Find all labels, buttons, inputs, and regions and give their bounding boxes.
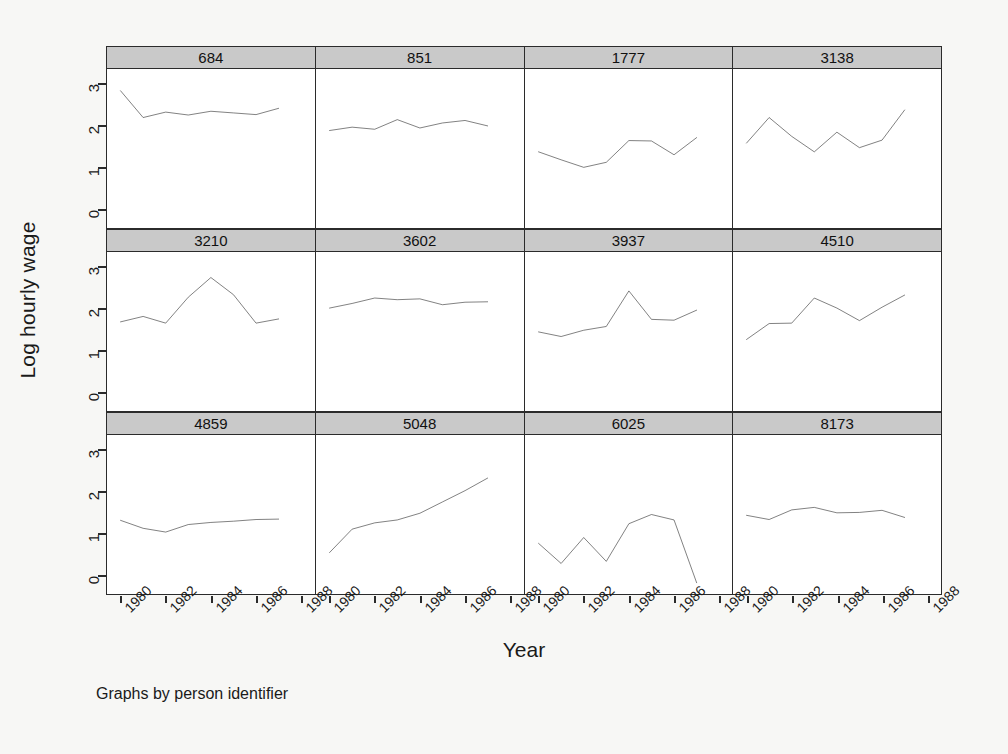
y-tick-label: 1	[85, 351, 103, 359]
facet-panel[interactable]	[107, 435, 316, 594]
facet-plot-row	[106, 69, 942, 229]
y-tick-mark	[98, 266, 106, 268]
series-line	[525, 69, 733, 228]
y-tick-label: 2	[85, 492, 103, 500]
facet-panel[interactable]	[733, 435, 941, 594]
series-line	[107, 252, 315, 411]
chart-caption-text: Graphs by person identifier	[96, 685, 288, 702]
y-tick-label: 3	[85, 84, 103, 92]
facet-strip-label: 4510	[733, 230, 941, 251]
series-line	[107, 69, 315, 228]
y-tick-mark	[98, 125, 106, 127]
facet-strip-label: 3138	[733, 47, 941, 68]
facet-strip-label: 1777	[525, 47, 734, 68]
facet-strip: 3210360239374510	[106, 229, 942, 252]
y-tick-mark	[98, 83, 106, 85]
x-tick-mark	[629, 596, 631, 603]
facet-strip-label: 8173	[733, 413, 941, 434]
series-line	[525, 252, 733, 411]
y-tick-label: 3	[85, 267, 103, 275]
facet-strip-label: 3937	[525, 230, 734, 251]
x-axis-title: Year	[106, 638, 942, 662]
facet-strip-label: 5048	[316, 413, 525, 434]
facet-strip: 68485117773138	[106, 46, 942, 69]
y-tick-mark	[98, 533, 106, 535]
y-tick-mark	[98, 449, 106, 451]
series-line	[316, 435, 524, 594]
facet-panel[interactable]	[316, 69, 525, 228]
y-tick-label: 2	[85, 309, 103, 317]
x-tick-mark	[256, 596, 258, 603]
y-tick-label: 0	[85, 210, 103, 218]
y-tick-label: 0	[85, 576, 103, 584]
facet-panel[interactable]	[316, 435, 525, 594]
y-tick-label: 3	[85, 450, 103, 458]
x-tick-mark	[120, 596, 122, 603]
facet-row: 3210360239374510	[106, 229, 942, 412]
series-line	[316, 69, 524, 228]
chart-caption: Graphs by person identifier	[96, 685, 288, 703]
facet-strip-label: 684	[107, 47, 316, 68]
facet-row: 4859504860258173	[106, 412, 942, 595]
x-tick-mark	[674, 596, 676, 603]
facet-panel[interactable]	[733, 69, 941, 228]
y-tick-label: 1	[85, 534, 103, 542]
facet-strip-label: 6025	[525, 413, 734, 434]
x-tick-mark	[211, 596, 213, 603]
facet-panel[interactable]	[107, 69, 316, 228]
facet-plot-row	[106, 435, 942, 595]
facet-grid: 6848511777313832103602393745104859504860…	[106, 46, 942, 596]
y-axis-title: Log hourly wage	[0, 0, 56, 600]
y-tick-mark	[98, 575, 106, 577]
facet-panel[interactable]	[525, 435, 734, 594]
facet-panel[interactable]	[733, 252, 941, 411]
facet-strip-label: 3602	[316, 230, 525, 251]
facet-plot-row	[106, 252, 942, 412]
y-tick-mark	[98, 167, 106, 169]
x-tick-mark	[420, 596, 422, 603]
x-tick-mark	[883, 596, 885, 603]
series-line	[733, 435, 941, 594]
facet-strip: 4859504860258173	[106, 412, 942, 435]
x-tick-mark	[747, 596, 749, 603]
y-tick-label: 1	[85, 168, 103, 176]
x-axis-title-text: Year	[503, 638, 545, 661]
x-tick-mark	[329, 596, 331, 603]
y-axis-title-text: Log hourly wage	[16, 221, 40, 378]
series-line	[107, 435, 315, 594]
y-tick-group: 0123	[60, 435, 106, 595]
facet-strip-label: 4859	[107, 413, 316, 434]
series-line	[316, 252, 524, 411]
x-tick-mark	[465, 596, 467, 603]
x-tick-mark	[538, 596, 540, 603]
y-tick-mark	[98, 308, 106, 310]
facet-strip-label: 851	[316, 47, 525, 68]
facet-panel[interactable]	[525, 69, 734, 228]
facet-row: 68485117773138	[106, 46, 942, 229]
y-tick-mark	[98, 392, 106, 394]
y-tick-mark	[98, 350, 106, 352]
y-tick-mark	[98, 209, 106, 211]
series-line	[733, 252, 941, 411]
facet-panel[interactable]	[107, 252, 316, 411]
y-tick-mark	[98, 491, 106, 493]
facet-panel[interactable]	[525, 252, 734, 411]
y-tick-group: 0123	[60, 252, 106, 412]
y-tick-label: 2	[85, 126, 103, 134]
series-line	[525, 435, 733, 594]
facet-panel[interactable]	[316, 252, 525, 411]
y-tick-label: 0	[85, 393, 103, 401]
x-tick-mark	[838, 596, 840, 603]
facet-strip-label: 3210	[107, 230, 316, 251]
figure-canvas: Log hourly wage 684851177731383210360239…	[0, 0, 1008, 754]
y-tick-group: 0123	[60, 69, 106, 229]
series-line	[733, 69, 941, 228]
